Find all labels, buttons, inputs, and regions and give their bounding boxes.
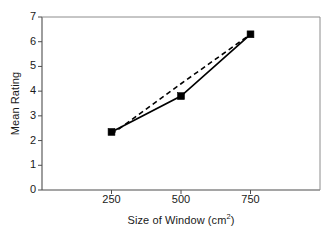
trend-line-dashed (112, 34, 251, 134)
trend-polyline (112, 34, 251, 134)
plot-frame (42, 17, 320, 190)
chart-figure: Mean Rating 01234567 250500750 Size of W… (0, 0, 334, 235)
plot-area (0, 0, 334, 235)
data-point-marker (247, 31, 254, 38)
data-point-marker (108, 129, 115, 136)
data-point-marker (178, 93, 185, 100)
axis-ticks (38, 17, 251, 194)
